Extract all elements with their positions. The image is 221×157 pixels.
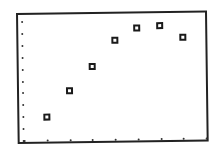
y-axis-tick-dot	[22, 80, 24, 82]
y-axis-tick-dot	[22, 104, 24, 106]
plot-frame	[16, 10, 209, 143]
x-axis-tick-dot	[137, 138, 139, 140]
x-axis-tick-dot	[92, 139, 94, 141]
data-point-marker	[179, 34, 186, 41]
x-axis-tick-dot	[115, 139, 117, 141]
y-axis-tick-dot	[22, 68, 24, 70]
y-axis-tick-dot	[22, 57, 24, 59]
y-axis-tick-dot	[23, 128, 25, 130]
x-axis-tick-dot	[183, 138, 185, 140]
scatter-points	[18, 13, 205, 15]
x-axis-tick-dot	[46, 140, 48, 142]
y-axis-tick-dot	[21, 45, 23, 47]
data-point-marker	[156, 23, 163, 30]
x-axis-tick-dot	[160, 138, 162, 140]
x-axis-tick-dot	[24, 140, 26, 142]
y-axis-tick-dot	[22, 92, 24, 94]
data-point-marker	[44, 113, 51, 120]
x-axis-tick-dot	[206, 138, 208, 140]
data-point-marker	[88, 63, 95, 70]
data-point-marker	[111, 36, 118, 43]
data-point-marker	[66, 87, 73, 94]
axis-ticks	[18, 13, 205, 15]
data-point-marker	[133, 24, 140, 31]
y-axis-tick-dot	[22, 116, 24, 118]
y-axis-tick-dot	[21, 21, 23, 23]
y-axis-tick-dot	[21, 33, 23, 35]
x-axis-tick-dot	[69, 139, 71, 141]
